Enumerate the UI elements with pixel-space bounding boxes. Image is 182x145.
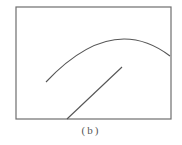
frame-rectangle <box>16 7 171 119</box>
straight-line-segment <box>67 67 122 119</box>
arc-curve <box>46 39 170 82</box>
figure-caption: (b) <box>0 124 182 136</box>
